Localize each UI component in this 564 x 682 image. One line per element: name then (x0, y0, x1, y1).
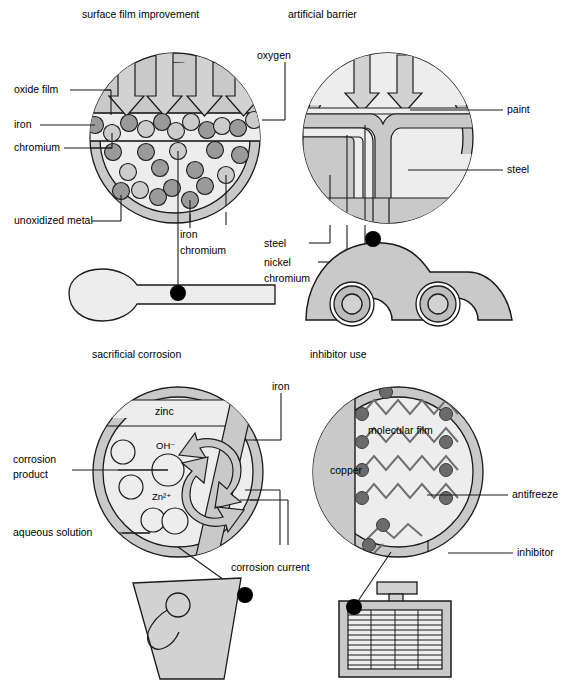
inhibitor-head (377, 519, 390, 532)
label-zinc: zinc (155, 405, 174, 417)
label-corrosion-product-l1: corrosion (13, 453, 56, 465)
label-oxygen: oxygen (257, 49, 291, 61)
callout-dot-radiator (346, 599, 362, 615)
panel-title-surface-film: surface film improvement (82, 8, 199, 20)
label-inhibitor: inhibitor (517, 546, 554, 558)
radiator-cap (377, 582, 417, 594)
label-steel: steel (507, 163, 529, 175)
callout-dot-bucket (237, 587, 253, 603)
iron-particle (138, 144, 155, 161)
iron-particle (105, 144, 122, 161)
label-zinc-ion: Zn²⁺ (152, 491, 171, 502)
chromium-particle (214, 118, 231, 135)
iron-particle (197, 178, 214, 195)
corrosion-product-bubble (111, 440, 135, 464)
label-steel-2: steel (264, 237, 286, 249)
label-paint: paint (507, 103, 530, 115)
chromium-particle (138, 121, 155, 138)
label-corrosion-product-l2: product (13, 468, 48, 480)
inhibitor-head (440, 436, 453, 449)
iron-particle (150, 189, 167, 206)
corrosion-diagram: surface film improvement (0, 0, 564, 682)
corrosion-product-bubble (162, 508, 188, 534)
inhibitor-head (356, 436, 369, 449)
iron-particle (187, 162, 204, 179)
label-corrosion-current: corrosion current (231, 561, 310, 573)
label-antifreeze: antifreeze (512, 488, 558, 500)
label-aqueous-solution: aqueous solution (13, 526, 93, 538)
label-oxide-film: oxide film (14, 83, 59, 95)
label-chromium-2: chromium (180, 244, 226, 256)
inhibitor-head (440, 492, 453, 505)
label-nickel: nickel (264, 256, 291, 268)
iron-particle (207, 142, 224, 159)
inhibitor-head (440, 464, 453, 477)
diagram-canvas: surface film improvement (0, 0, 564, 682)
paint-gap (303, 108, 473, 114)
iron-particle (199, 122, 216, 139)
panel-title-artificial-barrier: artificial barrier (288, 8, 357, 20)
callout-dot-spoon (170, 285, 186, 301)
label-iron-c: iron (272, 380, 290, 392)
label-chromium: chromium (14, 141, 60, 153)
inhibitor-head (356, 408, 369, 421)
callout-dot-car (365, 231, 381, 247)
corrosion-product-bubble (119, 475, 143, 499)
iron-particle (121, 115, 138, 132)
panel-title-sacrificial: sacrificial corrosion (92, 348, 181, 360)
car-wheel-front-hub (428, 294, 448, 314)
label-hydroxide-ion: OH⁻ (156, 440, 175, 451)
label-iron-2: iron (180, 228, 198, 240)
inhibitor-head (440, 408, 453, 421)
iron-particle (232, 147, 249, 164)
bucket-handle-ring (166, 593, 190, 617)
label-unoxidized-metal: unoxidized metal (14, 214, 93, 226)
chromium-particle (132, 182, 149, 199)
inhibitor-head (356, 492, 369, 505)
label-molecular-film: molecular film (368, 424, 433, 436)
corrosion-product-bubble (141, 508, 165, 532)
car-wheel-rear-hub (342, 294, 362, 314)
chromium-particle (120, 164, 137, 181)
panel-title-inhibitor: inhibitor use (310, 348, 367, 360)
page-background (0, 0, 564, 682)
label-iron: iron (14, 118, 32, 130)
iron-particle (230, 120, 247, 137)
chromium-particle (168, 123, 185, 140)
iron-particle (152, 160, 169, 177)
inhibitor-head (363, 539, 376, 552)
label-chromium-b: chromium (264, 272, 310, 284)
label-copper: copper (330, 464, 363, 476)
chromium-particle (183, 114, 200, 131)
